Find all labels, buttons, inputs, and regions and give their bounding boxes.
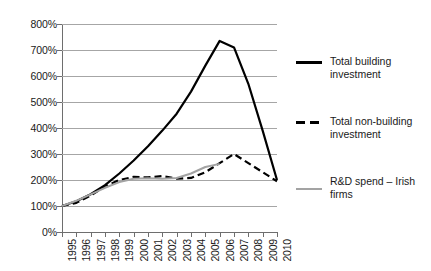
x-axis-tick-mark <box>91 233 92 237</box>
legend-label-line1: R&D spend – Irish <box>330 175 415 188</box>
x-axis-tick-mark <box>205 233 206 237</box>
x-axis-tick-label: 2010 <box>282 239 293 262</box>
y-axis-tick-label: 200% <box>5 175 57 186</box>
x-axis-tick-label: 1999 <box>124 239 135 262</box>
x-axis-tick-mark <box>105 233 106 237</box>
x-axis-tick-mark <box>263 233 264 237</box>
x-axis-tick-mark <box>220 233 221 237</box>
x-axis-tick-label: 2007 <box>239 239 250 262</box>
legend-swatch-icon <box>296 121 322 125</box>
series-container <box>62 24 277 232</box>
y-axis-tick-label: 0% <box>5 227 57 238</box>
x-axis: 1995199619971998199920002001200220032004… <box>62 233 278 271</box>
x-axis-tick-label: 1997 <box>96 239 107 262</box>
x-axis-tick-mark <box>234 233 235 237</box>
legend-swatch-icon <box>296 61 322 65</box>
legend-line-sample <box>296 61 322 64</box>
legend-swatch-icon <box>296 181 322 185</box>
legend-item[interactable]: Total non-buildinginvestment <box>296 115 412 141</box>
y-axis: 800%700%600%500%400%300%200%100%0% <box>0 0 57 271</box>
legend-label-line2: investment <box>330 68 391 81</box>
x-axis-tick-mark <box>76 233 77 237</box>
legend-item[interactable]: Total buildinginvestment <box>296 55 391 81</box>
x-axis-tick-label: 2000 <box>139 239 150 262</box>
plot-area <box>62 24 277 232</box>
x-axis-tick-mark <box>148 233 149 237</box>
x-axis-tick-mark <box>62 233 63 237</box>
y-axis-tick-label: 500% <box>5 97 57 108</box>
legend-label-line1: Total non-building <box>330 115 412 128</box>
series-line <box>62 164 220 206</box>
y-axis-tick-label: 800% <box>5 19 57 30</box>
legend-line-sample <box>296 188 322 190</box>
x-axis-tick-mark <box>191 233 192 237</box>
legend-label-line2: investment <box>330 128 412 141</box>
legend-item-label: R&D spend – Irishfirms <box>330 175 415 201</box>
y-axis-tick-label: 100% <box>5 201 57 212</box>
x-axis-tick-label: 2001 <box>153 239 164 262</box>
x-axis-tick-label: 2004 <box>196 239 207 262</box>
x-axis-tick-mark <box>277 233 278 237</box>
x-axis-tick-label: 1998 <box>110 239 121 262</box>
x-axis-tick-label: 2002 <box>167 239 178 262</box>
x-axis-tick-label: 1996 <box>81 239 92 262</box>
legend-item-label: Total buildinginvestment <box>330 55 391 81</box>
x-axis-tick-mark <box>248 233 249 237</box>
y-axis-tick-label: 400% <box>5 123 57 134</box>
y-axis-tick-label: 600% <box>5 71 57 82</box>
x-axis-tick-label: 2005 <box>210 239 221 262</box>
x-axis-tick-mark <box>177 233 178 237</box>
legend-label-line2: firms <box>330 188 415 201</box>
y-axis-tick-label: 300% <box>5 149 57 160</box>
legend-label-line1: Total building <box>330 55 391 68</box>
x-axis-tick-label: 2003 <box>182 239 193 262</box>
line-chart-figure: 800%700%600%500%400%300%200%100%0% 19951… <box>0 0 431 271</box>
x-axis-tick-label: 2006 <box>225 239 236 262</box>
x-axis-tick-mark <box>119 233 120 237</box>
legend-item-label: Total non-buildinginvestment <box>330 115 412 141</box>
legend-line-sample <box>296 121 322 124</box>
x-axis-tick-mark <box>162 233 163 237</box>
y-axis-tick-label: 700% <box>5 45 57 56</box>
x-axis-tick-label: 2008 <box>253 239 264 262</box>
x-axis-tick-label: 2009 <box>268 239 279 262</box>
x-axis-tick-mark <box>134 233 135 237</box>
series-line <box>62 41 277 206</box>
series-line <box>62 154 277 206</box>
legend-item[interactable]: R&D spend – Irishfirms <box>296 175 415 201</box>
x-axis-tick-label: 1995 <box>67 239 78 262</box>
